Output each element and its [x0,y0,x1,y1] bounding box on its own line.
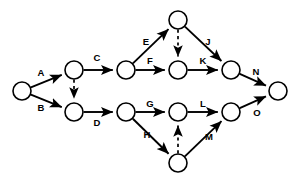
edge-A [31,75,62,87]
start-node [13,82,31,100]
edge-label-L: L [200,98,206,109]
edge-label-F: F [147,55,153,66]
edge-label-E: E [143,36,149,47]
node-upper-third [169,61,187,79]
node-upper-first [65,61,83,79]
node-upper-second [117,61,135,79]
edge-label-C: C [94,52,101,63]
edge-label-B: B [38,102,45,113]
node-lower-first [65,103,83,121]
end-node [269,82,287,100]
node-lower-merge [222,103,240,121]
activity-on-arrow-network: ABCDEFGHJKLMNO [0,0,299,184]
edge-label-D: D [94,117,101,128]
edge-label-G: G [146,98,153,109]
node-lower-second [117,103,135,121]
edge-label-M: M [205,131,213,142]
edge-label-K: K [200,55,207,66]
diagram-canvas: ABCDEFGHJKLMNO [0,0,299,184]
node-top [169,11,187,29]
node-upper-merge [222,61,240,79]
edge-B [31,95,62,107]
node-lower-third [169,103,187,121]
edge-label-J: J [205,36,210,47]
edge-label-A: A [38,67,45,78]
edge-M [185,121,222,156]
edge-labels-layer: ABCDEFGHJKLMNO [38,36,261,142]
node-bottom [169,154,187,172]
nodes-layer [13,11,287,172]
edge-label-O: O [253,107,260,118]
edge-label-H: H [144,129,151,140]
edge-label-N: N [253,66,260,77]
edge-H [133,119,169,154]
